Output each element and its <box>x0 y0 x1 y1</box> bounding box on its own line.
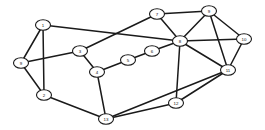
node-layer: 123456789101112139 <box>14 6 252 124</box>
graph-node-circle[interactable] <box>221 65 236 75</box>
graph-node-circle[interactable] <box>36 20 51 30</box>
graph-node-circle[interactable] <box>14 58 29 68</box>
graph-edge <box>176 41 180 103</box>
graph-edge <box>176 70 228 103</box>
graph-node[interactable]: 2 <box>37 90 52 100</box>
graph-node[interactable]: 11 <box>221 65 236 75</box>
graph-edge <box>180 39 244 41</box>
graph-node[interactable]: 7 <box>150 9 165 19</box>
graph-node-circle[interactable] <box>37 90 52 100</box>
graph-node-circle[interactable] <box>202 6 217 16</box>
graph-diagram: 123456789101112139 <box>0 0 265 130</box>
graph-node-circle[interactable] <box>121 55 136 65</box>
graph-edge <box>43 25 180 41</box>
graph-node[interactable]: 5 <box>121 55 136 65</box>
graph-edge <box>21 25 43 63</box>
edge-layer <box>21 11 244 119</box>
graph-node-circle[interactable] <box>150 9 165 19</box>
graph-canvas: 123456789101112139 <box>0 0 265 130</box>
graph-node-circle[interactable] <box>145 46 160 56</box>
graph-node[interactable]: 3 <box>73 46 88 56</box>
graph-node-circle[interactable] <box>169 98 184 108</box>
graph-node[interactable]: 9 <box>202 6 217 16</box>
graph-node[interactable]: 9 <box>14 58 29 68</box>
graph-edge <box>106 70 228 119</box>
graph-node-circle[interactable] <box>173 36 188 46</box>
graph-node[interactable]: 8 <box>173 36 188 46</box>
graph-edge <box>80 14 157 51</box>
graph-node[interactable]: 1 <box>36 20 51 30</box>
graph-edge <box>44 95 106 119</box>
graph-node-circle[interactable] <box>73 46 88 56</box>
graph-node-circle[interactable] <box>237 34 252 44</box>
graph-node-circle[interactable] <box>90 67 105 77</box>
graph-node[interactable]: 4 <box>90 67 105 77</box>
graph-node[interactable]: 12 <box>169 98 184 108</box>
graph-node-circle[interactable] <box>99 114 114 124</box>
graph-edge <box>43 25 44 95</box>
graph-node[interactable]: 6 <box>145 46 160 56</box>
graph-node[interactable]: 10 <box>237 34 252 44</box>
graph-edge <box>97 72 106 119</box>
graph-edge <box>21 51 80 63</box>
graph-node[interactable]: 13 <box>99 114 114 124</box>
